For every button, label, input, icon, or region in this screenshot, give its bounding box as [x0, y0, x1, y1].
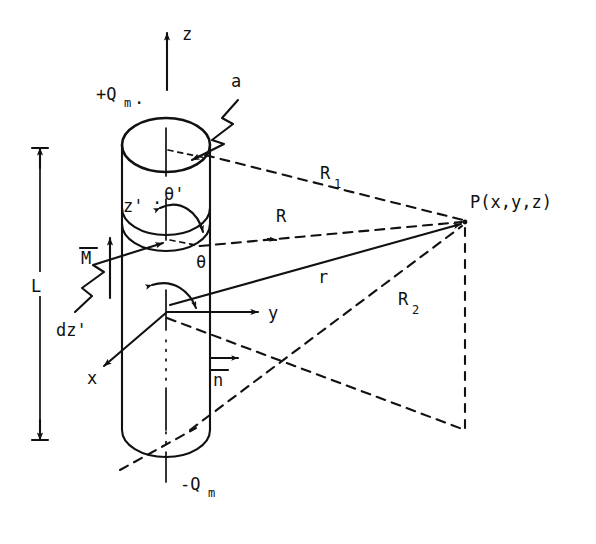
- axis-x-label: x: [87, 368, 97, 388]
- pole-bottom-subscript: m: [208, 486, 215, 500]
- R1-label: R: [320, 163, 331, 183]
- source-element-label: dz': [56, 320, 87, 340]
- top-face-radius-dash: [168, 150, 206, 158]
- top-pole-label-group: +Q m .: [96, 84, 144, 110]
- magnetized-cylinder-diagram: z +Q m . a L M dz' z': [0, 0, 596, 544]
- R2-subscript: 2: [412, 303, 419, 317]
- source-axis-label: z': [123, 196, 143, 216]
- coordinate-axes: y x: [87, 303, 278, 388]
- R1-subscript: 1: [334, 177, 341, 191]
- radius-zigzag-arrow: [192, 100, 238, 160]
- axis-z-label: z: [182, 24, 192, 44]
- field-point-marker: [463, 220, 468, 225]
- bottom-pole-label-group: -Q m: [180, 474, 215, 500]
- projection-origin-to-corner: [167, 318, 465, 430]
- R-direction-arrow: [268, 239, 276, 240]
- length-label: L: [31, 276, 41, 296]
- field-angle-label: θ: [196, 252, 206, 272]
- distance-R2: R 2: [190, 226, 462, 430]
- surface-normal-vector: n: [210, 358, 238, 390]
- length-dimension: L: [26, 148, 52, 440]
- field-angle-group: θ: [152, 252, 206, 308]
- magnetization-vector: M: [76, 238, 110, 298]
- field-point-group: P(x,y,z): [463, 192, 552, 224]
- field-point-label: P(x,y,z): [470, 192, 552, 212]
- pole-top-label: +Q: [96, 84, 116, 104]
- distance-R1: R 1: [205, 155, 463, 220]
- R2-line: [190, 226, 462, 430]
- pole-top-subscript: m: [124, 96, 131, 110]
- r-label: r: [318, 267, 328, 287]
- axis-y-label: y: [268, 303, 278, 323]
- magnetization-label: M: [81, 248, 91, 268]
- z-axis: z: [167, 24, 192, 90]
- radius-leader: a: [192, 71, 241, 160]
- pole-top-dot: .: [134, 88, 144, 108]
- projection-lower-left: [120, 428, 196, 470]
- R2-label: R: [398, 289, 409, 309]
- R-label: R: [276, 206, 287, 226]
- pole-bottom-label: -Q: [180, 474, 200, 494]
- projection-lines: [120, 228, 465, 470]
- source-angle-group: z' . θ': [123, 184, 203, 232]
- radius-label: a: [231, 71, 241, 91]
- source-angle-label: θ': [164, 184, 184, 204]
- source-axis-dot: .: [152, 188, 162, 208]
- x-axis-arrow: [104, 312, 167, 366]
- distance-R: R: [200, 206, 462, 246]
- surface-normal-label: n: [213, 370, 223, 390]
